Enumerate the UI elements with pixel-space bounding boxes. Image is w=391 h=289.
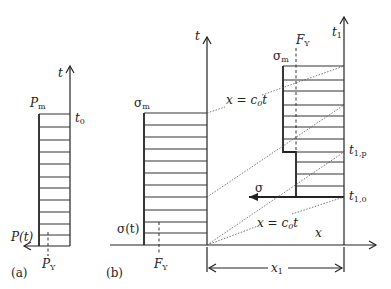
py-label: PY: [41, 257, 56, 272]
x-axis-b-label: x: [315, 226, 322, 240]
wave-front-label-lower: x = c0t: [257, 216, 298, 231]
t1p-label: t1,p: [349, 143, 367, 158]
t-axis-b-label: t: [195, 29, 200, 43]
sigma-arrow-label: σ: [255, 181, 263, 195]
panel-a: t Pm t0 P(t) PY (a): [10, 66, 85, 280]
t10-label: t1,0: [349, 189, 367, 204]
load-hatch-a: [39, 114, 70, 235]
load-hatch-b: [144, 113, 207, 233]
sigma-t-label: σ(t): [117, 222, 139, 236]
caption-b: (b): [106, 266, 123, 280]
t-axis-a-label: t: [58, 66, 63, 80]
t1-axis-label: t1: [332, 25, 342, 40]
sigma-m-label-left: σm: [134, 96, 150, 111]
stress-wave-diagram: t Pm t0 P(t) PY (a): [0, 0, 391, 289]
pm-label: Pm: [29, 96, 46, 111]
caption-a: (a): [11, 266, 28, 280]
fy-label-left: FY: [153, 257, 168, 272]
wave-front-label-upper: x = c0t: [226, 93, 267, 108]
response-hatch: [283, 66, 344, 186]
response-boundary: [283, 66, 296, 197]
t0-label: t0: [75, 111, 85, 126]
x1-label: x1: [271, 261, 283, 276]
p-axis-a-label: P(t): [10, 230, 34, 244]
sigma-m-label-right: σm: [273, 49, 289, 64]
panel-b: t t1 σm σ(t) FY (b) σm FY x = c0t x = c0…: [106, 17, 376, 280]
fy-label-right: FY: [295, 33, 310, 48]
